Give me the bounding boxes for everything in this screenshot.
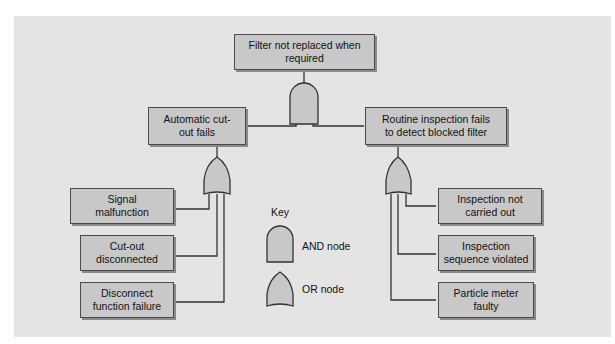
intermediate-node-automatic-cutout: Automatic cut- out fails <box>148 107 246 145</box>
top-event-node: Filter not replaced when required <box>234 34 375 70</box>
node-label-line2: carried out <box>457 206 522 219</box>
node-label-line2: malfunction <box>95 206 149 219</box>
key-or-gate-icon <box>267 272 293 306</box>
node-label-line1: Automatic cut- <box>163 113 230 126</box>
leaf-node-signal-malfunction: Signal malfunction <box>70 188 174 224</box>
intermediate-node-routine-inspection: Routine inspection fails to detect block… <box>365 107 507 145</box>
node-label-line1: Signal <box>95 193 149 206</box>
node-label-line2: disconnected <box>96 253 158 266</box>
leaf-node-inspection-not-carried-out: Inspection not carried out <box>438 188 542 224</box>
key-and-label: AND node <box>302 240 350 252</box>
key-or-label: OR node <box>302 283 344 295</box>
node-label-line1: Disconnect <box>93 287 161 300</box>
node-label-line2: faulty <box>454 300 519 313</box>
or-gate-icon <box>386 157 411 194</box>
key-and-gate-icon <box>267 226 293 262</box>
or-gate-icon <box>204 157 230 194</box>
leaf-node-cutout-disconnected: Cut-out disconnected <box>80 235 174 271</box>
top-event-line2: required <box>248 52 360 65</box>
top-event-line1: Filter not replaced when <box>248 39 360 52</box>
node-label-line2: sequence violated <box>444 253 529 266</box>
node-label-line1: Cut-out <box>96 240 158 253</box>
node-label-line2: out fails <box>163 126 230 139</box>
node-label-line1: Inspection <box>444 240 529 253</box>
node-label-line2: to detect blocked filter <box>382 126 490 139</box>
and-gate-icon <box>290 83 318 124</box>
leaf-node-particle-meter-faulty: Particle meter faulty <box>438 282 534 318</box>
key-title: Key <box>271 206 289 218</box>
node-label-line1: Inspection not <box>457 193 522 206</box>
node-label-line1: Particle meter <box>454 287 519 300</box>
node-label-line2: function failure <box>93 300 161 313</box>
node-label-line1: Routine inspection fails <box>382 113 490 126</box>
leaf-node-disconnect-function-failure: Disconnect function failure <box>80 282 174 318</box>
leaf-node-inspection-sequence-violated: Inspection sequence violated <box>438 235 534 271</box>
